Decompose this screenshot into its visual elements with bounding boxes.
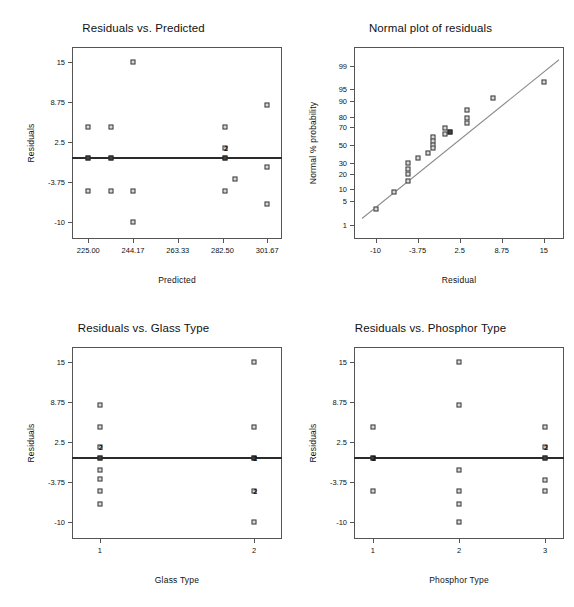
data-point (97, 402, 102, 407)
y-tick-label: 2.5 (32, 438, 65, 447)
y-tick-mark (350, 163, 354, 164)
data-point (97, 456, 102, 461)
plot-frame (354, 347, 564, 539)
y-tick-label: 20 (314, 169, 347, 178)
y-tick-label: -3.75 (32, 178, 65, 187)
x-tick-mark (545, 539, 546, 543)
x-tick-mark (223, 239, 224, 243)
data-point (465, 115, 470, 120)
x-tick-mark (460, 239, 461, 243)
x-tick-label: 8.75 (494, 246, 509, 255)
chart-residuals-vs-predicted: Residuals vs. Predicted158.752.5-3.75-10… (0, 0, 287, 300)
y-tick-mark (350, 189, 354, 190)
y-tick-label: 70 (314, 123, 347, 132)
data-point (405, 171, 410, 176)
x-tick-label: 15 (540, 246, 548, 255)
data-point (265, 202, 270, 207)
y-tick-mark (350, 225, 354, 226)
y-tick-mark (68, 362, 72, 363)
data-point (108, 189, 113, 194)
overlap-count-label: 2 (99, 444, 103, 451)
data-point (86, 125, 91, 130)
x-tick-mark (376, 239, 377, 243)
x-tick-label: -3.75 (409, 246, 426, 255)
plot-title: Residuals vs. Phosphor Type (287, 322, 574, 334)
zero-reference-line (72, 457, 282, 459)
data-point (457, 502, 462, 507)
x-tick-mark (254, 539, 255, 543)
data-point (543, 425, 548, 430)
data-point (541, 80, 546, 85)
x-tick-label: 1 (371, 546, 375, 555)
data-point (370, 489, 375, 494)
y-tick-label: 2.5 (32, 138, 65, 147)
chart-residuals-vs-glass-type: Residuals vs. Glass Type158.752.5-3.75-1… (0, 300, 287, 600)
overlap-count-label: 2 (224, 144, 228, 151)
data-point (370, 425, 375, 430)
y-tick-mark (350, 362, 354, 363)
x-tick-mark (178, 239, 179, 243)
y-axis-label: Normal % probability (308, 102, 318, 184)
x-tick-mark (502, 239, 503, 243)
y-tick-label: -3.75 (314, 478, 347, 487)
y-tick-mark (68, 402, 72, 403)
data-point (415, 156, 420, 161)
data-point (97, 477, 102, 482)
y-axis-label: Residuals (308, 423, 318, 462)
y-axis-label: Residuals (26, 423, 36, 462)
plot-title: Residuals vs. Glass Type (0, 322, 287, 334)
y-tick-mark (350, 127, 354, 128)
data-point (457, 489, 462, 494)
data-point (108, 156, 113, 161)
x-tick-label: 244.17 (122, 246, 145, 255)
data-point (442, 131, 447, 136)
x-tick-mark (459, 539, 460, 543)
data-point (426, 150, 431, 155)
plot-title: Normal plot of residuals (287, 22, 574, 34)
data-point (457, 520, 462, 525)
overlap-count-label: 2 (253, 455, 257, 462)
x-tick-label: 3 (543, 546, 547, 555)
data-point (431, 145, 436, 150)
data-point (131, 189, 136, 194)
y-tick-mark (350, 66, 354, 67)
y-tick-label: 15 (32, 357, 65, 366)
y-tick-label: -10 (314, 518, 347, 527)
y-tick-label: 30 (314, 159, 347, 168)
data-point (131, 220, 136, 225)
x-tick-mark (133, 239, 134, 243)
plot-frame (354, 47, 564, 239)
data-point (108, 125, 113, 130)
data-point (233, 177, 238, 182)
y-tick-label: 10 (314, 184, 347, 193)
y-tick-label: 15 (314, 357, 347, 366)
y-tick-mark (68, 102, 72, 103)
y-tick-label: -10 (32, 218, 65, 227)
data-point (405, 179, 410, 184)
x-tick-mark (544, 239, 545, 243)
x-tick-label: 2.5 (454, 246, 464, 255)
y-tick-mark (68, 182, 72, 183)
y-tick-mark (350, 402, 354, 403)
data-point (373, 206, 378, 211)
data-point (465, 121, 470, 126)
x-tick-label: 2 (457, 546, 461, 555)
overlap-count-label: 2 (253, 488, 257, 495)
y-tick-label: 2.5 (314, 438, 347, 447)
y-tick-label: 8.75 (314, 397, 347, 406)
y-tick-label: 95 (314, 85, 347, 94)
y-tick-mark (350, 482, 354, 483)
y-tick-mark (68, 222, 72, 223)
x-tick-mark (88, 239, 89, 243)
chart-normal-plot-of-residuals: Normal plot of residuals1510203050708090… (287, 0, 574, 300)
data-point (543, 489, 548, 494)
x-axis-label: Predicted (72, 275, 282, 285)
data-point (97, 489, 102, 494)
data-point (222, 125, 227, 130)
data-point (97, 425, 102, 430)
y-tick-mark (68, 522, 72, 523)
x-tick-label: -10 (370, 246, 381, 255)
plot-frame (72, 47, 282, 239)
data-point (543, 456, 548, 461)
data-point (457, 359, 462, 364)
